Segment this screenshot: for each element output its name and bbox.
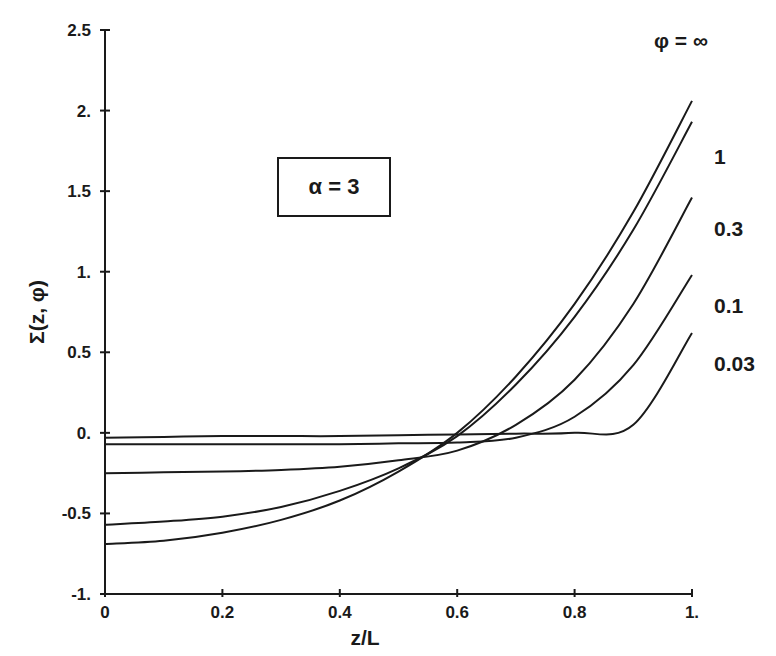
x-tick-label: 0.8 <box>563 603 587 622</box>
curve-label-phi-1: 1 <box>714 145 726 168</box>
y-tick-label: 2. <box>77 102 91 121</box>
x-tick-label: 0.6 <box>445 603 469 622</box>
axes: -1.-0.50.0.51.1.52.2.500.20.40.60.81. <box>62 21 699 622</box>
x-tick-label: 0.4 <box>328 603 352 622</box>
y-axis-title: Σ(z, φ) <box>25 280 48 344</box>
x-axis-title: z/L <box>350 626 379 649</box>
curve-phi-1 <box>105 122 692 525</box>
curve-phi-0.3 <box>105 198 692 474</box>
y-tick-label: -0.5 <box>62 504 91 523</box>
curve-phi-inf <box>105 101 692 544</box>
y-tick-label: 0.5 <box>67 343 91 362</box>
alpha-annotation: α = 3 <box>309 174 360 200</box>
y-tick-label: 1.5 <box>67 182 91 201</box>
curve-phi-0.1 <box>105 275 692 444</box>
curve-phi-0.03 <box>105 333 692 438</box>
chart-canvas: -1.-0.50.0.51.1.52.2.500.20.40.60.81. 10… <box>0 0 776 656</box>
curve-labels: 10.30.10.03 <box>714 145 755 375</box>
x-tick-label: 1. <box>685 603 699 622</box>
y-tick-label: 1. <box>77 263 91 282</box>
alpha-annotation-box: α = 3 <box>277 157 391 217</box>
curve-label-phi-0.03: 0.03 <box>714 352 755 375</box>
curve-label-phi-0.1: 0.1 <box>714 294 744 317</box>
legend-title: φ = ∞ <box>654 29 708 52</box>
y-tick-label: 0. <box>77 424 91 443</box>
curves <box>105 101 692 544</box>
curve-label-phi-0.3: 0.3 <box>714 217 743 240</box>
y-tick-label: -1. <box>71 585 91 604</box>
x-tick-label: 0 <box>100 603 109 622</box>
y-tick-label: 2.5 <box>67 21 91 40</box>
x-tick-label: 0.2 <box>211 603 235 622</box>
